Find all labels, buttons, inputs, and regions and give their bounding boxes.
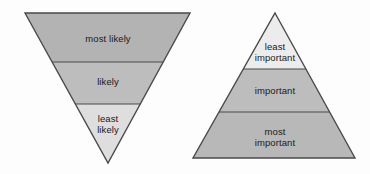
band-least-likely-shape: [75, 104, 140, 163]
band-most-likely-shape: [25, 13, 190, 62]
band-most-important-shape: [193, 112, 355, 158]
band-likely-shape: [52, 62, 163, 104]
band-important-shape: [219, 69, 330, 112]
diagram-canvas: most likely likely least likely least im…: [0, 0, 370, 174]
band-least-important-shape: [243, 13, 306, 69]
diagram-shapes: [0, 0, 370, 174]
inverted-triangle-likelihood: [25, 13, 190, 163]
pyramid-importance: [193, 13, 355, 158]
